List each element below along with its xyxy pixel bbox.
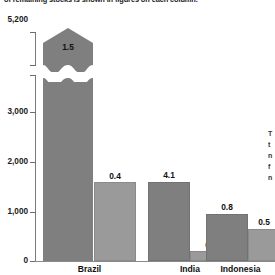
chart-plot-area: 5,200 3,000 2,000 1,000 0 1.5 0.4 Brazil… [0, 10, 275, 275]
y-axis-label-5200: 5,200 [0, 15, 28, 24]
y-tick-5200 [30, 32, 36, 33]
value-label-indonesia-series2: 0.5 [243, 217, 275, 227]
y-tick-3000b [30, 112, 36, 113]
legend-fragment-line-2: n [268, 150, 272, 161]
bar-brazil-series1-arrow-cap [43, 28, 93, 43]
value-label-brazil-series2: 0.4 [94, 171, 136, 181]
bar-brazil-series2[interactable] [94, 182, 136, 261]
legend-fragment-line-1: t [268, 139, 270, 150]
legend-text-fragment: T t n f n [268, 128, 275, 190]
y-axis-label-0: 0 [0, 256, 28, 265]
y-axis-line-lower [35, 75, 36, 261]
value-label-india-series1: 4.1 [148, 170, 190, 180]
y-axis-label-3000: 3,000 [0, 107, 28, 116]
y-axis-label-1000: 1,000 [0, 207, 28, 216]
bar-brazil-series1-bottom-segment[interactable] [43, 82, 93, 261]
bar-indonesia-series1[interactable] [206, 214, 248, 261]
wave-lower-svg [43, 76, 93, 86]
wave-upper-svg [43, 62, 93, 72]
y-tick-break [30, 65, 36, 66]
y-axis-label-2000: 2,000 [0, 157, 28, 166]
y-tick-3000 [30, 75, 36, 76]
legend-fragment-line-4: n [268, 172, 272, 183]
category-label-brazil: Brazil [43, 264, 136, 274]
bar-india-series1[interactable] [148, 182, 190, 261]
category-label-indonesia: Indonesia [206, 264, 275, 274]
y-tick-2000 [30, 162, 36, 163]
y-tick-1000 [30, 212, 36, 213]
axis-break-wave-lower [43, 74, 93, 86]
caption-strip: of remaining stocks is shown in figures … [0, 0, 275, 8]
bar-indonesia-series2[interactable] [248, 229, 275, 261]
value-label-brazil-series1: 1.5 [43, 42, 93, 52]
y-axis-line-upper [35, 32, 36, 65]
x-axis-baseline [35, 261, 275, 262]
legend-fragment-line-0: T [268, 128, 272, 139]
value-label-indonesia-series1: 0.8 [206, 202, 248, 212]
legend-fragment-line-3: f [268, 161, 270, 172]
axis-break-wave-upper [43, 60, 93, 72]
caption-text: of remaining stocks is shown in figures … [4, 0, 198, 4]
